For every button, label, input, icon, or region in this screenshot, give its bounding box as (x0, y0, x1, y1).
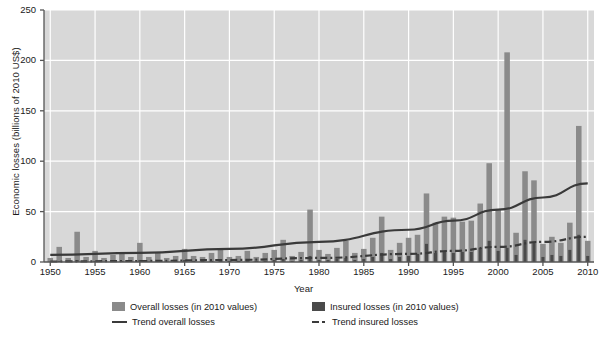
bar-insured-losses (515, 255, 518, 262)
bar-insured-losses (532, 242, 535, 262)
bar-insured-losses (568, 250, 571, 262)
bar-overall-losses (74, 232, 80, 262)
legend-label-trend-overall: Trend overall losses (132, 317, 215, 327)
x-axis-label: Year (0, 283, 607, 294)
legend-label-trend-insured: Trend insured losses (332, 317, 418, 327)
legend-item-trend-overall: Trend overall losses (112, 317, 312, 327)
bar-insured-losses (470, 252, 473, 262)
bar-overall-losses (262, 253, 268, 262)
economic-losses-chart: Economic losses (billions of 2010 US$) 0… (0, 0, 607, 338)
legend-item-trend-insured: Trend insured losses (312, 317, 532, 327)
bar-insured-losses (541, 257, 544, 262)
legend-item-insured-losses: Insured losses (in 2010 values) (312, 302, 532, 312)
legend-swatch-overall-losses (112, 302, 125, 311)
bar-insured-losses (479, 248, 482, 262)
bar-insured-losses (398, 257, 401, 262)
bar-insured-losses (497, 251, 500, 262)
bar-insured-losses (443, 251, 446, 262)
bar-insured-losses (488, 241, 491, 262)
bar-insured-losses (550, 255, 553, 262)
bar-insured-losses (559, 256, 562, 262)
bar-insured-losses (577, 235, 580, 262)
bar-insured-losses (461, 252, 464, 262)
bar-insured-losses (416, 254, 419, 262)
bar-overall-losses (504, 52, 510, 262)
legend-item-overall-losses: Overall losses (in 2010 values) (112, 302, 312, 312)
legend-label-insured-losses: Insured losses (in 2010 values) (330, 302, 459, 312)
bar-overall-losses (307, 210, 313, 262)
chart-legend: Overall losses (in 2010 values) Insured … (112, 299, 532, 329)
legend-label-overall-losses: Overall losses (in 2010 values) (130, 302, 257, 312)
bar-insured-losses (407, 256, 410, 262)
bar-insured-losses (506, 248, 509, 262)
bar-insured-losses (434, 253, 437, 262)
bar-insured-losses (452, 253, 455, 262)
bar-insured-losses (371, 257, 374, 262)
legend-swatch-trend-overall-line (112, 317, 127, 326)
legend-swatch-insured-losses (312, 302, 325, 311)
bar-insured-losses (586, 256, 589, 262)
legend-swatch-trend-insured-line (312, 317, 327, 326)
